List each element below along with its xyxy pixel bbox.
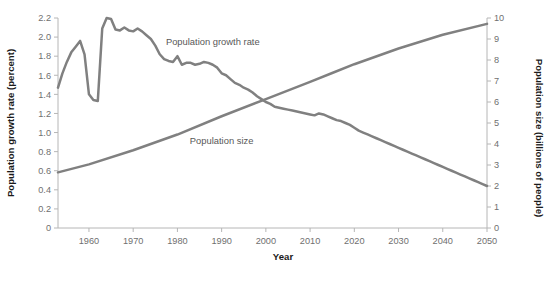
- left-tick-label: 0.6: [38, 166, 51, 176]
- right-axis-ticks: 012345678910: [487, 13, 504, 233]
- x-axis: 1960197019801990200020102020203020402050…: [58, 228, 497, 262]
- left-tick-label: 1.2: [38, 109, 51, 119]
- left-tick-label: 1.4: [38, 90, 51, 100]
- left-axis-ticks: 00.20.40.60.81.01.21.41.61.82.02.2: [38, 13, 58, 233]
- x-tick-label: 2010: [300, 236, 320, 246]
- x-tick-label: 2000: [256, 236, 276, 246]
- right-axis: 012345678910 Population size (billions o…: [487, 13, 545, 233]
- x-tick-label: 2040: [433, 236, 453, 246]
- x-tick-label: 2030: [388, 236, 408, 246]
- left-tick-label: 0.2: [38, 204, 51, 214]
- x-axis-title: Year: [273, 251, 294, 262]
- population-chart: 00.20.40.60.81.01.21.41.61.82.02.2 Popul…: [0, 0, 547, 282]
- x-tick-label: 1960: [79, 236, 99, 246]
- right-tick-label: 6: [494, 97, 499, 107]
- growth-rate-line: [58, 18, 487, 186]
- population-size-label: Population size: [190, 135, 254, 146]
- right-axis-title: Population size (billions of people): [534, 59, 545, 217]
- left-tick-label: 0.4: [38, 185, 51, 195]
- x-tick-label: 1990: [211, 236, 231, 246]
- series-lines: [58, 18, 487, 186]
- right-tick-label: 10: [494, 13, 504, 23]
- growth-rate-label: Population growth rate: [166, 36, 260, 47]
- x-axis-ticks: 1960197019801990200020102020203020402050: [79, 228, 497, 246]
- right-tick-label: 0: [494, 223, 499, 233]
- x-tick-label: 1970: [123, 236, 143, 246]
- left-tick-label: 2.0: [38, 32, 51, 42]
- series-annotations: Population growth rate Population size: [166, 36, 260, 146]
- right-tick-label: 5: [494, 118, 499, 128]
- left-axis-title: Population growth rate (percent): [5, 49, 16, 197]
- x-tick-label: 1980: [167, 236, 187, 246]
- left-axis: 00.20.40.60.81.01.21.41.61.82.02.2 Popul…: [5, 13, 58, 233]
- right-tick-label: 9: [494, 34, 499, 44]
- left-tick-label: 1.8: [38, 51, 51, 61]
- population-size-line: [58, 24, 487, 172]
- right-tick-label: 4: [494, 139, 499, 149]
- left-tick-label: 2.2: [38, 13, 51, 23]
- x-tick-label: 2050: [477, 236, 497, 246]
- x-tick-label: 2020: [344, 236, 364, 246]
- right-tick-label: 7: [494, 76, 499, 86]
- right-tick-label: 2: [494, 181, 499, 191]
- right-tick-label: 1: [494, 202, 499, 212]
- left-tick-label: 1.6: [38, 71, 51, 81]
- left-tick-label: 1.0: [38, 128, 51, 138]
- chart-canvas: 00.20.40.60.81.01.21.41.61.82.02.2 Popul…: [0, 0, 547, 282]
- left-tick-label: 0: [46, 223, 51, 233]
- left-tick-label: 0.8: [38, 147, 51, 157]
- right-tick-label: 3: [494, 160, 499, 170]
- right-tick-label: 8: [494, 55, 499, 65]
